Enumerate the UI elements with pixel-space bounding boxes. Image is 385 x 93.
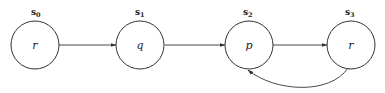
state-node-s2: p (225, 21, 273, 69)
edge-s3-s2-loop (248, 68, 348, 87)
state-header-s0: s0 (31, 7, 41, 19)
state-label: r (348, 39, 354, 52)
state-label: q (136, 39, 143, 52)
state-diagram: s0 s1 s2 s3 r q p r (0, 0, 385, 93)
state-label: r (32, 39, 38, 52)
state-label: p (245, 39, 252, 52)
state-header-s1: s1 (135, 7, 145, 19)
state-node-s3: r (327, 21, 375, 69)
state-node-s0: r (11, 21, 59, 69)
state-node-s1: q (116, 21, 164, 69)
state-header-s2: s2 (243, 7, 253, 19)
state-header-s3: s3 (345, 7, 355, 19)
